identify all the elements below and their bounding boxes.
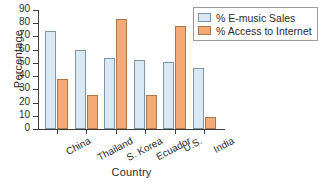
y-axis-tick-label: 30: [19, 82, 30, 94]
x-axis-tick: [175, 130, 176, 134]
x-axis-tick: [116, 130, 117, 134]
y-axis-tick-label: 60: [19, 43, 30, 55]
x-axis-title: Country: [38, 166, 225, 178]
bar-emusic: [193, 68, 204, 129]
bar-group: [163, 10, 186, 129]
bar-internet: [87, 95, 98, 129]
y-axis-tick-label: 20: [19, 96, 30, 108]
y-axis-line: [38, 10, 39, 130]
x-axis-tick: [204, 130, 205, 134]
x-axis-tick-label: India: [211, 135, 235, 155]
legend-item: % E-music Sales: [198, 11, 312, 24]
x-axis-tick: [57, 130, 58, 134]
bar-internet: [146, 95, 157, 129]
x-axis-line: [38, 129, 225, 130]
y-axis-tick-label: 10: [19, 109, 30, 121]
legend-swatch-internet: [198, 26, 211, 35]
bar-emusic: [163, 62, 174, 129]
bar-internet: [116, 19, 127, 129]
y-axis-tick: 60: [33, 50, 38, 51]
bar-group: [45, 10, 68, 129]
y-axis-tick: 20: [33, 103, 38, 104]
x-axis-tick-label: China: [64, 135, 92, 157]
y-axis-tick: 90: [33, 10, 38, 11]
bar-group: [104, 10, 127, 129]
x-axis-tick: [86, 130, 87, 134]
bar-group: [75, 10, 98, 129]
y-axis-tick: 0: [33, 129, 38, 130]
legend-swatch-emusic: [198, 13, 211, 22]
bar-chart-figure: Percentage 0102030405060708090 ChinaThai…: [0, 0, 329, 184]
chart-legend: % E-music Sales % Access to Internet: [193, 7, 318, 41]
bar-internet: [57, 79, 68, 129]
bar-group: [134, 10, 157, 129]
bar-internet: [205, 117, 216, 129]
y-axis-tick: 50: [33, 63, 38, 64]
y-axis-tick-label: 0: [24, 122, 30, 134]
y-axis-tick-label: 90: [19, 3, 30, 15]
bar-emusic: [104, 58, 115, 129]
bar-internet: [175, 26, 186, 129]
x-axis-tick: [145, 130, 146, 134]
legend-label-emusic: % E-music Sales: [216, 12, 295, 24]
y-axis-tick-label: 50: [19, 56, 30, 68]
bar-emusic: [45, 31, 56, 129]
y-axis-tick-label: 80: [19, 16, 30, 28]
y-axis-tick: 70: [33, 36, 38, 37]
bar-emusic: [134, 60, 145, 129]
y-axis-tick: 80: [33, 23, 38, 24]
legend-item: % Access to Internet: [198, 24, 312, 37]
legend-label-internet: % Access to Internet: [216, 25, 312, 37]
y-axis-tick-label: 40: [19, 69, 30, 81]
y-axis-tick: 30: [33, 89, 38, 90]
y-axis-tick-label: 70: [19, 29, 30, 41]
y-axis-tick: 10: [33, 116, 38, 117]
y-axis-tick: 40: [33, 76, 38, 77]
bar-emusic: [75, 50, 86, 129]
